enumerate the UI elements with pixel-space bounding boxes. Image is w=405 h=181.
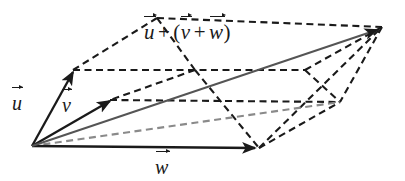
inner-vertical-edge bbox=[195, 70, 259, 148]
vector-w-arrow bbox=[32, 146, 255, 148]
sum-expression-label: u+(v+w) bbox=[144, 22, 231, 43]
sum-label-plus-1: + bbox=[155, 20, 173, 44]
vector-w-label-text: w bbox=[155, 157, 168, 177]
middle-face-edge-front bbox=[110, 100, 340, 102]
sum-label-plus-2: + bbox=[191, 20, 209, 44]
sum-label-open-paren: ( bbox=[173, 20, 181, 44]
lower-face-edges bbox=[195, 27, 382, 148]
sum-label-close-paren: ) bbox=[224, 20, 232, 44]
vector-w-label: w bbox=[155, 157, 168, 177]
base-to-apex-edge bbox=[259, 27, 382, 148]
base-edge-right-rise bbox=[259, 102, 340, 148]
vector-u-label: u bbox=[12, 93, 22, 113]
vector-u-label-text: u bbox=[12, 93, 22, 113]
v-plus-w-diagonal bbox=[32, 102, 340, 146]
vector-v-label-text: v bbox=[62, 95, 71, 115]
sum-label-u: u bbox=[144, 22, 155, 43]
sum-label-v: v bbox=[181, 22, 191, 43]
sum-label-w: w bbox=[209, 22, 224, 43]
vector-diagram: u+(v+w) u v w bbox=[0, 0, 405, 181]
vector-v-label: v bbox=[62, 95, 71, 115]
